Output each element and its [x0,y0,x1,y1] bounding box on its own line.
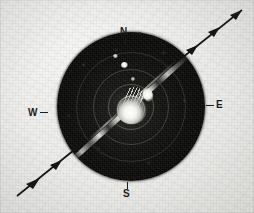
paper-vignette [0,0,254,213]
radar-scope-figure: N S W E [0,0,254,213]
